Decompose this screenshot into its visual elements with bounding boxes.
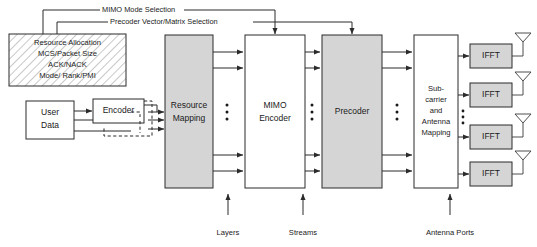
ifft-3-label: IFFT [482, 131, 500, 141]
encoder-label: Encoder [103, 105, 135, 115]
antenna-1 [512, 33, 531, 56]
user-data-line-1: User [41, 107, 59, 117]
user-data-line-2: Data [41, 120, 59, 130]
resource-allocation-line-2: MCS/Packet Size [38, 49, 97, 58]
resource-allocation-line-3: ACK/NACK [48, 60, 87, 69]
control-label-precoder-selection: Precoder Vector/Matrix Selection [110, 17, 218, 26]
bottom-label-antenna-ports: Antenna Ports [426, 228, 474, 237]
precoder-label: Precoder [335, 106, 370, 116]
subcarrier-line-3: and [430, 106, 443, 115]
ifft-2-block: IFFT [470, 83, 512, 107]
wire-encoder-out-a [144, 105, 157, 112]
ifft-4-block: IFFT [470, 162, 512, 186]
ellipsis-antenna-ports [396, 104, 399, 121]
encoder-block: Encoder [93, 99, 144, 123]
ifft-4-label: IFFT [482, 168, 500, 178]
ellipsis-layers [226, 104, 229, 121]
mimo-encoder-block: MIMO Encoder [245, 35, 305, 188]
subcarrier-antenna-mapping-block: Sub- carrier and Antenna Mapping [414, 35, 458, 188]
subcarrier-line-1: Sub- [428, 84, 445, 93]
ifft-3-block: IFFT [470, 125, 512, 149]
mimo-encoder-line-1: MIMO [263, 100, 287, 110]
ellipsis-streams [311, 104, 314, 121]
ifft-2-label: IFFT [482, 89, 500, 99]
control-label-mimo-mode: MIMO Mode Selection [102, 5, 175, 14]
annotation-streams: Streams [289, 194, 317, 237]
antenna-2 [512, 72, 531, 95]
resource-mapping-line-1: Resource [171, 100, 208, 110]
bottom-label-layers: Layers [217, 228, 240, 237]
ellipsis-ifft [462, 110, 465, 125]
subcarrier-line-2: carrier [425, 95, 447, 104]
resource-mapping-block: Resource Mapping [165, 35, 213, 188]
resource-allocation-line-4: Mode/ Rank/PMI [39, 71, 96, 80]
mimo-encoder-line-2: Encoder [259, 113, 291, 123]
annotation-antenna-ports: Antenna Ports [426, 194, 474, 237]
subcarrier-line-5: Mapping [421, 128, 450, 137]
subcarrier-line-4: Antenna [422, 117, 451, 126]
mimo-transmitter-diagram: MIMO Mode Selection Precoder Vector/Matr… [0, 0, 537, 247]
annotation-layers: Layers [217, 194, 240, 237]
ifft-1-block: IFFT [470, 44, 512, 68]
resource-allocation-block: Resource Allocation MCS/Packet Size ACK/… [9, 34, 126, 86]
diagram-canvas: MIMO Mode Selection Precoder Vector/Matr… [0, 0, 537, 247]
resource-mapping-line-2: Mapping [173, 113, 206, 123]
antenna-4 [512, 151, 531, 174]
user-data-block: User Data [26, 101, 74, 139]
bottom-label-streams: Streams [289, 228, 317, 237]
antenna-3 [512, 114, 531, 137]
precoder-block: Precoder [322, 35, 382, 188]
resource-allocation-line-1: Resource Allocation [34, 38, 101, 47]
ifft-1-label: IFFT [482, 50, 500, 60]
